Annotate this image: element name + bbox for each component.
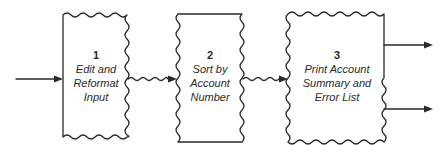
process-text-3-line-3: Error List [290, 90, 384, 104]
output-arrow-1 [384, 42, 433, 49]
output-arrow-2 [384, 106, 433, 113]
process-label-2: 2 Sort by Account Number [178, 48, 242, 104]
process-number-1: 1 [64, 48, 128, 62]
process-text-3-line-2: Summary and [290, 76, 384, 90]
process-label-3: 3 Print Account Summary and Error List [290, 48, 384, 104]
process-text-2-line-1: Sort by [178, 62, 242, 76]
process-text-1-line-3: Input [64, 90, 128, 104]
process-label-1: 1 Edit and Reformat Input [64, 48, 128, 104]
flow-arrow-1-to-2 [128, 76, 177, 83]
process-text-3-line-1: Print Account [290, 62, 384, 76]
flow-arrow-2-to-3 [243, 76, 288, 83]
process-number-2: 2 [178, 48, 242, 62]
process-text-2-line-2: Account [178, 76, 242, 90]
process-text-2-line-3: Number [178, 90, 242, 104]
process-number-3: 3 [290, 48, 384, 62]
process-text-1-line-2: Reformat [64, 76, 128, 90]
process-text-1-line-1: Edit and [64, 62, 128, 76]
input-arrow [16, 76, 63, 83]
